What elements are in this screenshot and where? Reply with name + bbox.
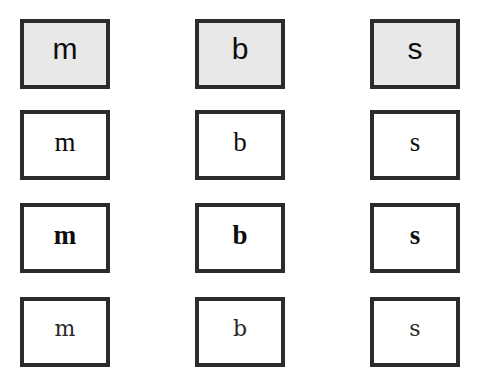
letter-glyph-m: m bbox=[54, 222, 77, 249]
letter-glyph-s: s bbox=[410, 222, 421, 249]
letter-cell-b-sans[interactable]: b bbox=[195, 19, 285, 89]
letter-cell-s-serif[interactable]: s bbox=[370, 110, 460, 180]
letter-cell-b-serif[interactable]: b bbox=[195, 110, 285, 180]
letter-cell-s-bold[interactable]: s bbox=[370, 203, 460, 273]
letter-glyph-m: m bbox=[53, 34, 78, 64]
letter-cell-b-light[interactable]: b bbox=[195, 297, 285, 367]
letter-row-sans-serif: m b s bbox=[0, 19, 482, 89]
letter-glyph-b: b bbox=[232, 34, 249, 64]
letter-row-serif-light: m b s bbox=[0, 297, 482, 367]
letter-cell-m-serif[interactable]: m bbox=[20, 110, 110, 180]
letter-glyph-b: b bbox=[233, 318, 247, 340]
letter-cell-m-light[interactable]: m bbox=[20, 297, 110, 367]
letter-row-serif-regular: m b s bbox=[0, 110, 482, 180]
letter-glyph-b: b bbox=[233, 129, 247, 156]
letter-glyph-s: s bbox=[410, 129, 421, 156]
letter-cell-m-sans[interactable]: m bbox=[20, 19, 110, 89]
letter-cell-s-sans[interactable]: s bbox=[370, 19, 460, 89]
letter-sample-grid: m b s m b s m b s m bbox=[0, 0, 482, 382]
letter-cell-m-bold[interactable]: m bbox=[20, 203, 110, 273]
letter-glyph-m: m bbox=[55, 318, 76, 340]
letter-glyph-m: m bbox=[54, 129, 75, 156]
letter-cell-b-bold[interactable]: b bbox=[195, 203, 285, 273]
letter-glyph-b: b bbox=[232, 222, 247, 249]
letter-cell-s-light[interactable]: s bbox=[370, 297, 460, 367]
letter-glyph-s: s bbox=[409, 318, 420, 340]
letter-row-serif-bold: m b s bbox=[0, 203, 482, 273]
letter-glyph-s: s bbox=[408, 34, 423, 64]
